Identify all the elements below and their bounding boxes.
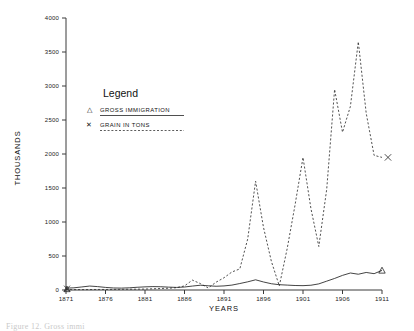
legend: Legend △ GROSS IMMIGRATION ✕ GRAIN IN TO… <box>86 87 184 131</box>
cross-icon: ✕ <box>86 121 92 128</box>
x-tick-label: 1886 <box>177 295 192 302</box>
series-gross-immigration <box>66 270 382 288</box>
y-tick-label: 500 <box>48 253 59 259</box>
legend-label-grain-in-tons: GRAIN IN TONS <box>100 122 150 128</box>
legend-title: Legend <box>103 87 138 99</box>
x-tick-label: 1876 <box>98 295 113 302</box>
x-tick-label: 1881 <box>138 295 153 302</box>
y-tick-label: 3000 <box>45 83 60 89</box>
y-tick-label: 2500 <box>45 117 60 123</box>
figure-container: 05001000150020002500300035004000 THOUSAN… <box>0 0 414 331</box>
y-tick-label: 0 <box>55 287 59 293</box>
end-marker-cross <box>385 154 391 160</box>
series-end-markers <box>379 154 391 273</box>
x-axis-ticks: 187118761881188618911896190119061911 <box>59 290 390 302</box>
y-tick-label: 3500 <box>45 49 60 55</box>
figure-caption: Figure 12. Gross immi <box>6 322 85 331</box>
immigration-grain-line-chart: 05001000150020002500300035004000 THOUSAN… <box>0 0 414 331</box>
x-axis-title: YEARS <box>209 304 239 313</box>
y-tick-label: 4000 <box>45 15 60 21</box>
y-axis-ticks: 05001000150020002500300035004000 <box>45 15 66 293</box>
end-marker-triangle <box>379 267 385 273</box>
x-tick-label: 1911 <box>375 295 389 302</box>
x-tick-label: 1871 <box>59 295 74 302</box>
x-tick-label: 1896 <box>256 295 271 302</box>
y-tick-label: 2000 <box>45 151 60 157</box>
legend-label-gross-immigration: GROSS IMMIGRATION <box>100 107 170 113</box>
y-axis: 05001000150020002500300035004000 THOUSAN… <box>13 15 66 293</box>
series-start-markers <box>64 286 70 292</box>
y-tick-label: 1000 <box>45 219 60 225</box>
x-tick-label: 1901 <box>296 295 311 302</box>
x-tick-label: 1891 <box>217 295 232 302</box>
y-axis-title: THOUSANDS <box>13 130 22 185</box>
y-tick-label: 1500 <box>45 185 60 191</box>
series-group <box>66 42 382 290</box>
series-grain-in-tons <box>66 42 382 290</box>
triangle-up-icon: △ <box>87 106 93 113</box>
x-tick-label: 1906 <box>335 295 350 302</box>
x-axis: 187118761881188618911896190119061911 YEA… <box>59 290 390 313</box>
